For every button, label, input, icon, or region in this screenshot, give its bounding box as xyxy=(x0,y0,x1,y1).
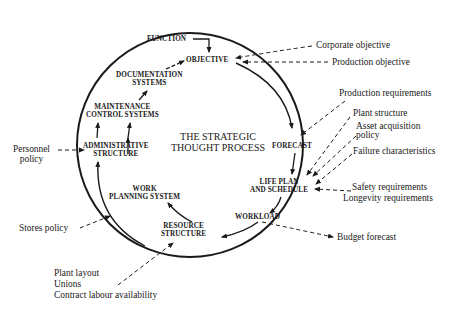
label-plant-layout: Plant layout xyxy=(54,268,99,278)
label-personnel-line2: policy xyxy=(13,154,50,164)
label-plant-structure: Plant structure xyxy=(353,108,407,118)
label-corporate-objective: Corporate objective xyxy=(316,40,390,50)
node-lifeplan-line1: LIFE PLAN xyxy=(250,178,308,186)
dashed-production-requirements xyxy=(301,101,345,135)
node-maintenance-line2: CONTROL SYSTEMS xyxy=(86,111,159,119)
dashed-plant-layout xyxy=(118,243,173,285)
node-resource-line1: RESOURCE xyxy=(161,222,206,230)
arrow-documentation-objective xyxy=(166,61,184,69)
node-documentation-systems: DOCUMENTATION SYSTEMS xyxy=(116,71,183,87)
dashed-safety-requirements xyxy=(315,189,351,191)
node-maintenance-control-systems: MAINTENANCE CONTROL SYSTEMS xyxy=(86,103,159,119)
node-function: FUNCTION xyxy=(147,35,186,43)
label-production-requirements: Production requirements xyxy=(339,88,431,98)
dashed-failure-characteristics xyxy=(316,154,352,184)
node-documentation-line1: DOCUMENTATION xyxy=(116,71,183,79)
label-safety-requirements: Safety requirements xyxy=(352,182,427,192)
label-production-objective: Production objective xyxy=(332,57,410,67)
center-title-line1: THE STRATEGIC xyxy=(171,131,265,142)
node-resource-structure: RESOURCE STRUCTURE xyxy=(161,222,206,238)
node-maintenance-line1: MAINTENANCE xyxy=(86,103,159,111)
label-stores-policy: Stores policy xyxy=(19,223,68,233)
node-workplanning-line2: PLANNING SYSTEM xyxy=(109,193,180,201)
node-resource-line2: STRUCTURE xyxy=(161,230,206,238)
label-budget-forecast: Budget forecast xyxy=(337,232,396,242)
dashed-budget-forecast xyxy=(262,222,333,237)
node-forecast: FORECAST xyxy=(272,142,312,150)
node-documentation-line2: SYSTEMS xyxy=(116,79,183,87)
label-personnel-policy: Personnel policy xyxy=(13,144,50,164)
label-longevity-requirements: Longevity requirements xyxy=(343,193,433,203)
arrow-maintenance-documentation xyxy=(139,91,147,100)
arrow-function-objective xyxy=(193,39,209,52)
arrow-workload-resource xyxy=(222,222,258,237)
dashed-plant-structure xyxy=(307,117,350,175)
arrow-workplanning-maintenance xyxy=(128,123,130,138)
arrow-admin-maintenance xyxy=(97,123,98,138)
arrow-resource-workplanning xyxy=(168,203,192,222)
center-title-line2: THOUGHT PROCESS xyxy=(171,142,265,153)
node-life-plan: LIFE PLAN AND SCHEDULE xyxy=(250,178,308,194)
node-objective: OBJECTIVE xyxy=(186,56,228,64)
label-asset-acquisition-policy: Asset acquisition policy xyxy=(356,122,420,140)
center-title: THE STRATEGIC THOUGHT PROCESS xyxy=(171,131,265,153)
node-work-planning-system: WORK PLANNING SYSTEM xyxy=(109,185,180,201)
node-admin-line1: ADMINISTRATIVE xyxy=(83,142,149,150)
label-failure-characteristics: Failure characteristics xyxy=(353,146,436,156)
arrow-outer-left-arc xyxy=(76,244,120,270)
dashed-stores-policy xyxy=(80,216,110,228)
arrow-forecast-lifeplan xyxy=(292,153,295,174)
label-asset-line2: policy xyxy=(356,131,420,140)
label-personnel-line1: Personnel xyxy=(13,144,50,154)
node-workplanning-line1: WORK xyxy=(109,185,180,193)
label-unions: Unions xyxy=(54,279,81,289)
arrow-objective-forecast xyxy=(236,63,292,128)
node-workload: WORKLOAD xyxy=(235,213,280,221)
arrow-lifeplan-workload xyxy=(270,197,281,213)
node-lifeplan-line2: AND SCHEDULE xyxy=(250,186,308,194)
node-administrative-structure: ADMINISTRATIVE STRUCTURE xyxy=(83,142,149,158)
node-admin-line2: STRUCTURE xyxy=(83,150,149,158)
label-contract-labour: Contract labour availability xyxy=(54,290,157,300)
